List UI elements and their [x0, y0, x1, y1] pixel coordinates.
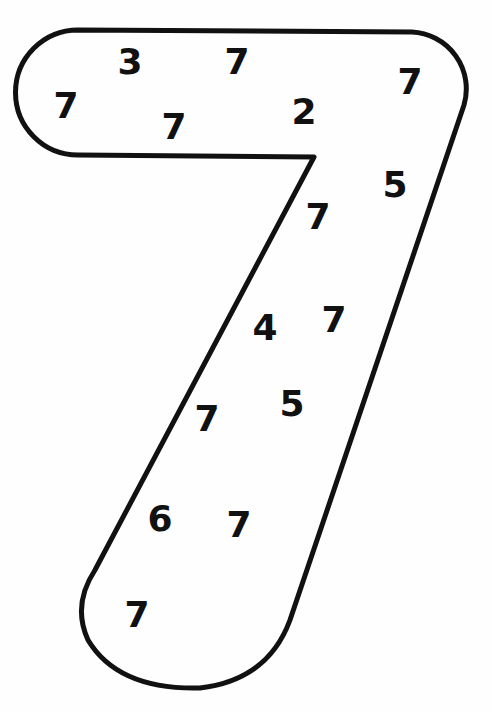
digit-5: 5 — [279, 386, 304, 422]
digit-6: 6 — [147, 501, 172, 537]
digit-2: 2 — [291, 94, 316, 130]
number-seven-worksheet: 377772574757677 — [0, 0, 492, 712]
digit-7: 7 — [305, 199, 330, 235]
digit-7: 7 — [161, 109, 186, 145]
digit-7: 7 — [224, 44, 249, 80]
digit-4: 4 — [252, 310, 277, 346]
digit-7: 7 — [321, 302, 346, 338]
digit-5: 5 — [382, 167, 407, 203]
digit-7: 7 — [194, 401, 219, 437]
digit-7: 7 — [53, 88, 78, 124]
digit-7: 7 — [124, 597, 149, 633]
digit-7: 7 — [397, 64, 422, 100]
digit-3: 3 — [117, 44, 142, 80]
digit-7: 7 — [226, 507, 251, 543]
